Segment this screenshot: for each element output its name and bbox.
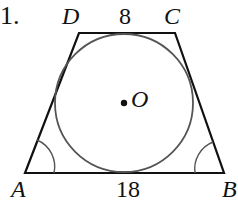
angle-mark-b [195, 142, 213, 173]
top-base-length: 8 [119, 3, 131, 29]
label-o: O [131, 86, 148, 112]
trapezoid-diagram: 1. D C A B O 8 18 [0, 0, 238, 200]
label-b: B [222, 176, 237, 200]
label-a: A [9, 176, 26, 200]
label-d: D [61, 3, 79, 29]
problem-number: 1. [0, 1, 20, 30]
label-c: C [164, 3, 181, 29]
angle-mark-a [37, 140, 55, 173]
bottom-base-length: 18 [116, 176, 140, 200]
center-point [121, 100, 127, 106]
